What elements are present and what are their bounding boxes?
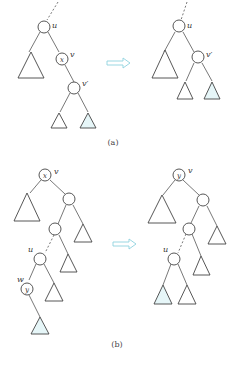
label-u: u [187,21,192,30]
subtree-triangle [18,52,44,78]
subtree-triangle [74,224,92,242]
subtree-triangle [51,113,67,128]
label-x: x [43,172,47,180]
label-v: v [188,166,193,175]
label-x: x [60,56,64,64]
node-u [168,253,180,265]
label-v-prime: v′ [82,79,89,88]
transform-arrow-icon [107,58,130,68]
highlighted-subtree-triangle [80,113,96,128]
node-v-prime [68,82,80,94]
part-a-after-tree: u v′ [152,2,220,99]
edge [207,206,217,226]
highlighted-subtree-triangle [204,82,220,99]
edge [65,65,74,82]
label-v: v [70,50,75,59]
node-u [38,21,50,33]
edge [164,32,175,52]
node [49,223,61,235]
caption-b: (b) [111,340,122,349]
edge [48,32,59,52]
subtree-triangle [193,256,210,275]
node-u [173,20,185,32]
parent-dashed-edge [181,2,187,20]
edge [50,180,65,194]
subtree-triangle [208,226,226,244]
node [63,193,75,205]
label-w: w [17,275,24,284]
edge [44,264,54,283]
dashed-path-edge [178,234,186,253]
transform-arrow-icon [113,239,136,249]
label-u: u [163,245,168,254]
edge [202,63,212,81]
label-u: u [52,21,57,30]
subtree-triangle [178,285,196,304]
tree-transformation-diagram: u x v v′ u v′ (a) x [0,0,234,367]
edge [58,205,66,224]
part-a-before-tree: u x v v′ [18,2,96,128]
highlighted-subtree-triangle [154,285,172,304]
edge [192,234,201,256]
highlighted-subtree-triangle [31,317,49,334]
node-v-prime [192,51,204,63]
edge [59,235,68,254]
edge [163,180,175,195]
edge [186,63,194,81]
edge [163,264,171,285]
subtree-triangle [152,50,178,78]
label-v: v [54,167,59,176]
edge [29,295,40,317]
edge [78,93,88,112]
edge [183,32,194,52]
edge [178,264,187,285]
node-u [34,253,46,265]
edge [73,205,83,224]
label-u: u [28,245,33,254]
dashed-path-edge [45,235,54,253]
subtree-triangle [148,195,176,223]
label-v-prime: v′ [206,50,213,59]
edge [29,264,36,280]
part-b-before-tree: x v u y w [14,167,92,334]
subtree-triangle [177,82,193,99]
edge [60,93,70,112]
parent-dashed-edge [47,2,58,20]
edge [191,206,199,223]
part-b-after-tree: y v u [148,166,226,304]
subtree-triangle [45,283,63,301]
edge [183,180,199,195]
edge [30,180,41,193]
node [183,223,195,235]
node [197,194,209,206]
caption-a: (a) [107,138,118,147]
edge [29,32,40,52]
subtree-triangle [14,193,40,221]
subtree-triangle [60,254,77,272]
